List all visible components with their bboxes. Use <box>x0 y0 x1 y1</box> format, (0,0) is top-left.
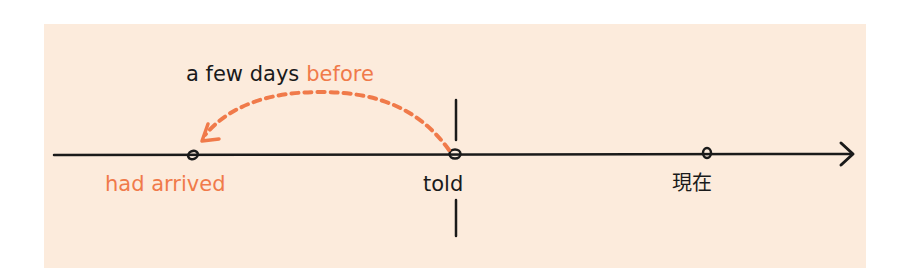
label-had-arrived: had arrived <box>105 174 225 195</box>
label-told: told <box>423 174 463 195</box>
caption: a few daysbefore <box>186 64 374 85</box>
caption-emphasis: before <box>306 62 374 86</box>
label-now: 現在 <box>672 173 712 193</box>
dashed-curved-arrow-icon <box>202 92 449 150</box>
timeline-diagram <box>0 0 908 279</box>
arrow-right-icon <box>54 143 853 165</box>
caption-prefix: a few days <box>186 62 299 86</box>
